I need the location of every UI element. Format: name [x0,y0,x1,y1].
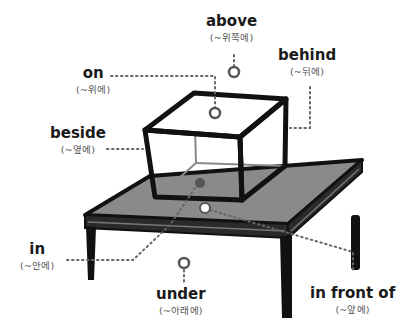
label-in-front-of: in front of (~앞에) [310,286,395,315]
label-in-front-of-en: in front of [310,286,395,301]
label-above-ko: (~위쪽에) [206,33,257,43]
label-behind-en: behind [278,48,336,63]
label-in-front-of-ko: (~앞에) [310,305,395,315]
label-on-en: on [76,66,110,81]
label-behind-ko: (~뒤에) [278,67,336,77]
label-on: on (~위에) [76,66,110,95]
table-leg-front-left [86,226,96,280]
marker-in [195,178,205,188]
leader-behind [290,87,310,128]
table-leg-back-right [351,215,360,270]
marker-above [229,67,239,77]
marker-under [179,258,189,268]
marker-on [210,108,220,118]
label-beside-en: beside [50,126,106,141]
label-beside: beside (~옆에) [50,126,106,155]
label-above: above (~위쪽에) [206,14,257,43]
label-in: in (~안에) [20,242,54,271]
label-under: under (~아래에) [156,287,206,316]
label-under-ko: (~아래에) [156,306,206,316]
label-behind: behind (~뒤에) [278,48,336,77]
label-in-ko: (~안에) [20,261,54,271]
label-under-en: under [156,287,206,302]
label-on-ko: (~위에) [76,85,110,95]
label-above-en: above [206,14,257,29]
table-leg-front-right [280,236,292,318]
label-in-en: in [20,242,54,257]
marker-in-front-of [200,203,210,213]
label-beside-ko: (~옆에) [50,145,106,155]
